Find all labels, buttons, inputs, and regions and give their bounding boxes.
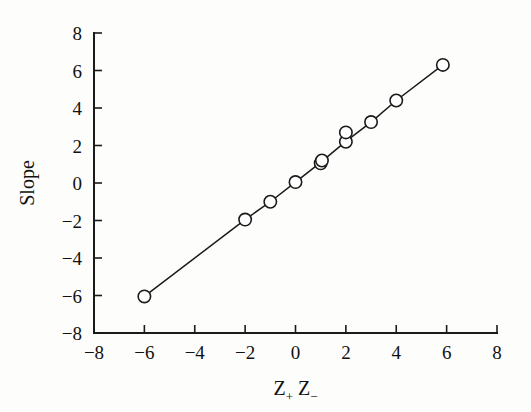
x-tick-label: 2 <box>341 342 351 363</box>
data-series <box>138 59 449 303</box>
data-point-marker <box>340 126 352 138</box>
x-tick-label: −4 <box>185 342 206 363</box>
data-point-marker <box>365 116 377 128</box>
x-axis-title: Z+ Z− <box>273 377 317 404</box>
chart-figure: −8−6−4−202468−8−6−4−202468SlopeZ+ Z− <box>0 0 531 412</box>
scatter-plot: −8−6−4−202468−8−6−4−202468SlopeZ+ Z− <box>0 0 531 412</box>
x-tick-label: 6 <box>442 342 452 363</box>
x-tick-label: 0 <box>291 342 301 363</box>
data-point-marker <box>289 176 301 188</box>
x-axis: −8−6−4−202468 <box>84 325 502 363</box>
x-tick-label: −2 <box>235 342 255 363</box>
x-tick-label: −6 <box>134 342 154 363</box>
data-point-marker <box>316 154 328 166</box>
y-tick-label: −6 <box>62 286 82 307</box>
y-tick-label: −8 <box>62 323 82 344</box>
data-point-marker <box>264 196 276 208</box>
x-tick-label: 4 <box>392 342 402 363</box>
data-point-marker <box>437 59 449 71</box>
y-axis-title: Slope <box>16 160 39 206</box>
y-tick-label: −4 <box>62 248 83 269</box>
y-tick-label: 0 <box>73 173 83 194</box>
y-tick-label: 2 <box>73 136 83 157</box>
y-tick-label: −2 <box>62 211 82 232</box>
y-tick-label: 4 <box>73 98 83 119</box>
y-tick-label: 8 <box>73 23 83 44</box>
x-tick-label: −8 <box>84 342 104 363</box>
data-point-marker <box>138 290 150 302</box>
y-tick-label: 6 <box>73 61 83 82</box>
y-axis: −8−6−4−202468 <box>62 23 102 344</box>
data-point-marker <box>390 94 402 106</box>
x-tick-label: 8 <box>492 342 502 363</box>
data-point-marker <box>239 213 251 225</box>
